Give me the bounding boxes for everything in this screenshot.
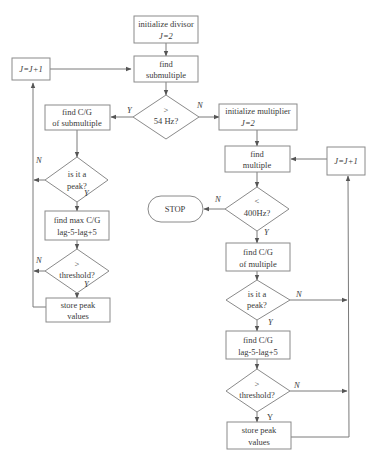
node-text: is it a [68, 169, 87, 179]
edge-label-yes: Y [264, 227, 270, 237]
node-find-cg-multiple: find C/G of multiple [226, 243, 290, 271]
node-text: find C/G [62, 107, 92, 117]
decision-400hz: < 400Hz? [225, 187, 289, 231]
node-text: store peak [61, 300, 96, 310]
node-find-max-cg: find max C/G lag-5-lag+5 [45, 211, 109, 240]
decision-threshold-left: > threshold? [45, 249, 109, 293]
node-text: J=J+1 [334, 156, 357, 166]
node-text: values [248, 437, 270, 447]
node-text: initialize divisor [138, 19, 194, 29]
node-text: peak? [247, 300, 267, 310]
node-text: submultiple [146, 70, 186, 80]
node-text: threshold? [59, 270, 95, 280]
node-find-cg-submultiple: find C/G of submultiple [45, 105, 110, 130]
node-text: J=J+1 [19, 64, 42, 74]
node-text: 54 Hz? [154, 116, 179, 126]
node-initialize-multiplier: initialize multiplier J=2 [219, 104, 297, 130]
node-left-j-increment: J=J+1 [12, 58, 50, 80]
node-text: multiple [243, 160, 272, 170]
node-right-j-increment: J=J+1 [327, 147, 365, 175]
node-text: of submultiple [52, 118, 102, 128]
node-find-submultiple: find submultiple [134, 56, 198, 82]
node-text: STOP [165, 204, 186, 214]
node-text: find C/G [243, 335, 273, 345]
node-text: find [250, 149, 264, 159]
node-text: J=2 [159, 31, 174, 41]
node-text: > [75, 259, 80, 269]
decision-peak-right: is it a peak? [226, 280, 290, 320]
node-text: values [67, 311, 89, 321]
node-text: find max C/G [54, 215, 101, 225]
edge-label-no: N [293, 380, 301, 390]
edge-label-no: N [35, 155, 43, 165]
edge-label-yes: Y [267, 412, 273, 422]
node-text: initialize multiplier [225, 106, 291, 116]
decision-threshold-right: > threshold? [226, 369, 290, 412]
node-text: J=2 [241, 118, 256, 128]
node-store-peak-left: store peak values [46, 298, 110, 322]
edge-label-no: N [214, 194, 222, 204]
node-text: find C/G [243, 247, 273, 257]
node-text: find [159, 59, 173, 69]
node-text: store peak [242, 425, 277, 435]
node-text: > [164, 105, 169, 115]
edge-label-no: N [35, 255, 43, 265]
edge-label-no: N [295, 289, 303, 299]
decision-54hz: > 54 Hz? [133, 95, 199, 139]
node-store-peak-right: store peak values [227, 422, 291, 449]
node-text: > [255, 379, 260, 389]
node-text: lag-5-lag+5 [57, 227, 97, 237]
node-find-cg-lag: find C/G lag-5-lag+5 [226, 331, 290, 359]
node-find-multiple: find multiple [225, 146, 290, 172]
flowchart-canvas: initialize divisor J=2 find submultiple … [0, 0, 380, 467]
decision-peak-left: is it a peak? [45, 157, 108, 202]
edge-label-yes: Y [268, 317, 274, 327]
terminal-stop: STOP [148, 196, 203, 222]
node-text: lag-5-lag+5 [238, 347, 278, 357]
node-text: 400Hz? [244, 208, 271, 218]
node-text: is it a [248, 289, 267, 299]
node-text: threshold? [239, 390, 275, 400]
node-text: of multiple [239, 259, 277, 269]
edge-label-yes: Y [127, 105, 133, 115]
node-initialize-divisor: initialize divisor J=2 [134, 16, 198, 43]
node-text: < [255, 196, 260, 206]
edge-label-no: N [196, 100, 204, 110]
